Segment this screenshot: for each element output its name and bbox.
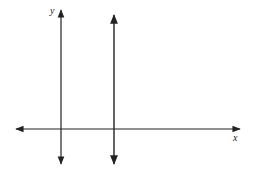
coordinate-plane: y x <box>0 0 257 176</box>
y-axis-label: y <box>49 5 55 16</box>
x-axis-label: x <box>232 132 238 143</box>
